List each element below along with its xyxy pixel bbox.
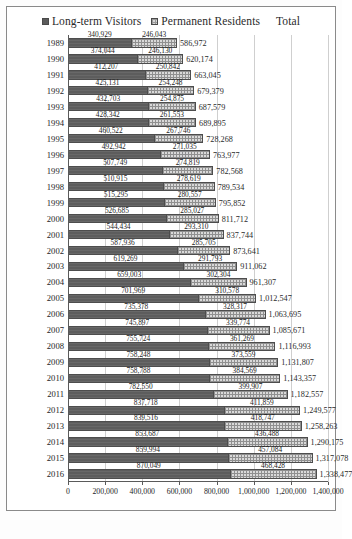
bar-row[interactable]: 1,085,6712007745,897339,774: [68, 322, 328, 338]
bar-total-label: 911,062: [237, 262, 266, 271]
bar-total-label: 1,143,357: [280, 374, 316, 383]
bar-row[interactable]: 1,116,9932008755,724361,269: [68, 338, 328, 354]
bar-row[interactable]: 1,143,3572010758,788384,569: [68, 370, 328, 386]
bar-total-label: 728,268: [203, 134, 233, 143]
bar-row[interactable]: 1,290,1752014853,687436,488: [68, 434, 328, 450]
bar-segment-label-long-term-visitors: 492,942: [102, 143, 126, 150]
bar-total-label: 1,258,263: [302, 422, 338, 431]
legend-label-total: Total: [276, 15, 300, 27]
legend-label-permanent-residents: Permanent Residents: [161, 15, 260, 27]
y-axis-category-label: 1991: [47, 70, 64, 80]
bar-total-label: 586,972: [177, 38, 207, 47]
bar-segment-label-permanent-residents: 339,774: [226, 318, 250, 325]
y-axis-category-label: 1992: [47, 86, 64, 96]
bar-row[interactable]: 1,012,5472005701,969310,578: [68, 290, 328, 306]
y-axis-category-label: 1994: [47, 118, 64, 128]
bar-segment-label-long-term-visitors: 745,897: [125, 318, 149, 325]
y-axis-category-label: 2011: [47, 389, 64, 399]
y-axis-category-label: 1996: [47, 150, 64, 160]
y-axis-category-label: 2012: [47, 405, 64, 415]
bar-row[interactable]: 1,131,8072009758,248373,559: [68, 354, 328, 370]
bar-segment-label-permanent-residents: 436,488: [255, 430, 279, 437]
bar-segment-label-long-term-visitors: 587,936: [111, 238, 135, 245]
bar-segment-label-permanent-residents: 328,317: [223, 302, 247, 309]
plot-wrapper: 586,9721989340,929246,043620,1741990374,…: [14, 35, 331, 504]
bar-total-label: 795,852: [216, 198, 246, 207]
y-axis-category-label: 2001: [47, 230, 64, 240]
bar-row[interactable]: 1,258,2632013839,516418,747: [68, 418, 328, 434]
bar-segment-label-permanent-residents: 361,269: [230, 334, 254, 341]
bar-row[interactable]: 1,182,5572011782,550399,907: [68, 386, 328, 402]
bar-segment-label-permanent-residents: 457,084: [258, 446, 282, 453]
bar-segment-long-term-visitors[interactable]: [68, 469, 230, 478]
y-axis-category-label: 2010: [47, 373, 64, 383]
bar-total-label: 1,085,671: [270, 326, 306, 335]
y-axis-category-label: 2003: [47, 261, 64, 271]
legend-item-long-term-visitors[interactable]: Long-term Visitors: [42, 15, 141, 27]
bar-segment-permanent-residents[interactable]: [230, 469, 317, 478]
x-axis-tick-label: 1,400,000: [312, 487, 343, 496]
y-axis-category-label: 2002: [47, 246, 64, 256]
legend-item-total: Total: [270, 15, 300, 27]
bar-segment-label-permanent-residents: 278,619: [177, 175, 201, 182]
bar-segment-label-permanent-residents: 274,819: [176, 159, 200, 166]
bar-segment-label-long-term-visitors: 526,685: [105, 207, 129, 214]
bar-total-label: 1,317,078: [313, 454, 349, 463]
x-axis-tickmark: [105, 482, 106, 485]
stacked-bar[interactable]: 2016: [68, 469, 317, 478]
x-axis-tickmark: [328, 482, 329, 485]
bar-segment-label-long-term-visitors: 544,434: [107, 223, 131, 230]
bar-segment-label-long-term-visitors: 425,131: [95, 79, 119, 86]
y-axis-category-label: 2014: [47, 437, 64, 447]
y-axis-category-label: 2015: [47, 453, 64, 463]
bar-row[interactable]: 1,338,4772016870,049468,428: [68, 466, 328, 482]
bar-segment-label-long-term-visitors: 340,929: [88, 31, 112, 38]
bar-total-label: 1,249,577: [300, 406, 336, 415]
x-axis-tick-label: 1,000,000: [238, 487, 269, 496]
bar-segment-label-permanent-residents: 418,747: [251, 414, 275, 421]
x-axis-tickmark: [68, 482, 69, 485]
bar-segment-label-permanent-residents: 285,027: [180, 207, 204, 214]
y-axis-category-label: 2007: [47, 325, 64, 335]
bar-row[interactable]: 961,3072004659,003302,304: [68, 274, 328, 290]
y-axis-category-label: 2009: [47, 357, 64, 367]
bar-segment-label-permanent-residents: 468,428: [261, 462, 285, 469]
bar-segment-label-long-term-visitors: 659,003: [117, 270, 141, 277]
y-axis-category-label: 2000: [47, 214, 64, 224]
y-axis-category-label: 2005: [47, 293, 64, 303]
bar-row[interactable]: 1,317,0782015859,994457,084: [68, 450, 328, 466]
y-axis-line: [68, 35, 69, 482]
bar-row[interactable]: 1,063,6952006735,378328,317: [68, 306, 328, 322]
bar-segment-label-long-term-visitors: 510,915: [103, 175, 127, 182]
bar-total-label: 811,712: [219, 214, 248, 223]
bar-total-label: 763,977: [210, 150, 240, 159]
bar-row[interactable]: 1,249,5772012837,718411,859: [68, 402, 328, 418]
y-axis-category-label: 1995: [47, 134, 64, 144]
legend-swatch-icon-permanent-residents: [151, 18, 158, 25]
bar-segment-label-long-term-visitors: 782,550: [129, 382, 153, 389]
bar-row[interactable]: 911,0622003619,269291,793: [68, 259, 328, 275]
bar-segment-label-permanent-residents: 411,859: [250, 398, 274, 405]
bar-segment-label-permanent-residents: 246,043: [142, 31, 166, 38]
bar-total-label: 620,174: [183, 54, 213, 63]
bar-segment-label-permanent-residents: 291,793: [198, 254, 222, 261]
y-axis-category-label: 1999: [47, 198, 64, 208]
bar-segment-label-permanent-residents: 384,569: [233, 366, 257, 373]
legend-label-long-term-visitors: Long-term Visitors: [52, 15, 141, 27]
legend-swatch-icon-long-term-visitors: [42, 18, 49, 25]
bar-segment-label-long-term-visitors: 758,248: [126, 350, 150, 357]
bar-segment-label-long-term-visitors: 853,687: [135, 430, 159, 437]
x-axis-tick-label: 800,000: [204, 487, 229, 496]
bar-segment-label-permanent-residents: 280,557: [178, 191, 202, 198]
bar-segment-label-long-term-visitors: 412,207: [94, 63, 118, 70]
x-axis-ticks: 0200,000400,000600,000800,0001,000,0001,…: [68, 482, 328, 504]
bar-segment-label-permanent-residents: 399,907: [238, 382, 262, 389]
y-axis-category-label: 1990: [47, 54, 64, 64]
y-axis-category-label: 2004: [47, 277, 64, 287]
bar-segment-label-long-term-visitors: 460,522: [99, 127, 123, 134]
bar-segment-label-permanent-residents: 250,842: [156, 63, 180, 70]
bar-segment-label-permanent-residents: 285,705: [192, 238, 216, 245]
bar-total-label: 1,012,547: [256, 294, 292, 303]
legend-item-permanent-residents[interactable]: Permanent Residents: [151, 15, 260, 27]
